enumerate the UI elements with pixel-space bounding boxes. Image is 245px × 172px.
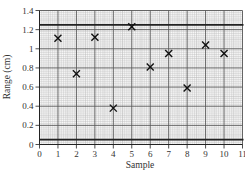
y-tick-label: 0.6 xyxy=(22,82,34,92)
grid-minor xyxy=(40,11,243,145)
x-axis-ticks: 01234567891011 xyxy=(37,145,245,159)
y-tick-label: 1.4 xyxy=(22,6,34,16)
y-tick-label: 1 xyxy=(29,44,34,54)
x-tick-label: 1 xyxy=(56,149,61,159)
x-tick-label: 6 xyxy=(148,149,153,159)
x-tick-label: 11 xyxy=(238,149,245,159)
y-tick-label: 0.4 xyxy=(22,101,34,111)
y-tick-label: 1.2 xyxy=(22,25,33,35)
y-axis-ticks: 00.20.40.60.811.21.4 xyxy=(22,6,39,150)
x-tick-label: 10 xyxy=(220,149,230,159)
x-tick-label: 0 xyxy=(37,149,42,159)
y-axis-title: Range (cm) xyxy=(2,55,13,100)
scatter-chart: 00.20.40.60.811.21.4 01234567891011 Samp… xyxy=(0,0,245,172)
y-tick-label: 0.2 xyxy=(22,120,33,130)
x-tick-label: 5 xyxy=(130,149,135,159)
x-tick-label: 9 xyxy=(203,149,208,159)
x-tick-label: 8 xyxy=(185,149,190,159)
x-tick-label: 2 xyxy=(74,149,79,159)
y-tick-label: 0.8 xyxy=(22,63,34,73)
x-tick-label: 3 xyxy=(93,149,98,159)
x-tick-label: 4 xyxy=(111,149,116,159)
y-tick-label: 0 xyxy=(29,140,34,150)
x-tick-label: 7 xyxy=(166,149,171,159)
x-axis-title: Sample xyxy=(126,160,155,170)
